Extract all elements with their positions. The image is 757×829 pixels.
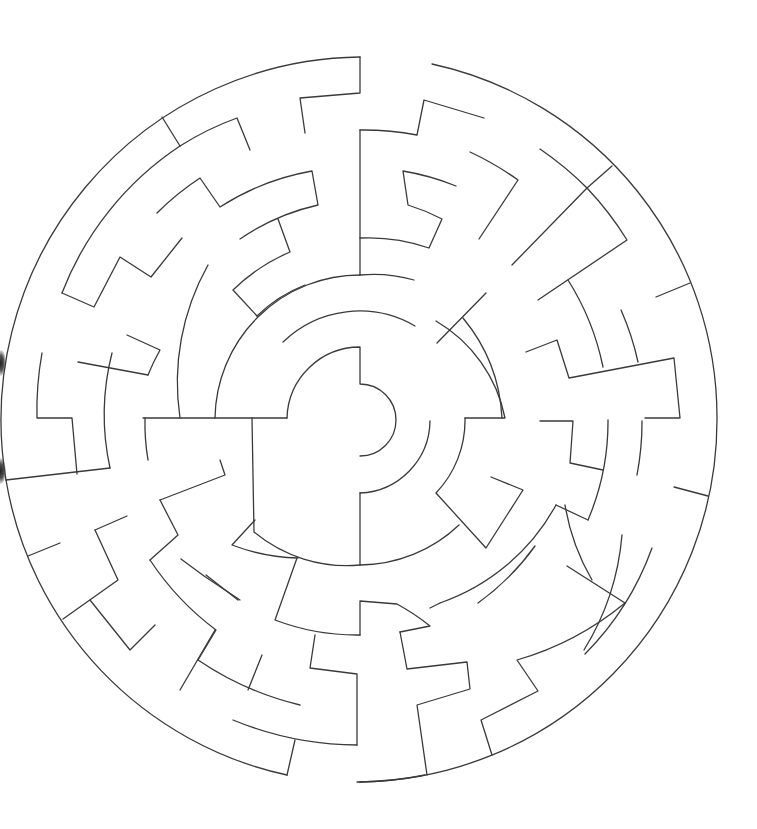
maze-wall [95, 516, 127, 530]
circular-maze [0, 0, 757, 829]
maze-wall [400, 632, 470, 775]
maze-wall [526, 340, 680, 418]
maze-wall [512, 188, 587, 265]
maze-wall [584, 535, 622, 650]
maze-wall [360, 64, 717, 782]
maze-wall [180, 630, 215, 690]
maze-wall [360, 493, 459, 565]
maze-wall [556, 505, 588, 520]
maze-wall [656, 283, 690, 297]
maze-wall [538, 188, 627, 300]
maze-wall [150, 500, 178, 560]
maze-wall [674, 487, 708, 496]
maze-wall [360, 775, 425, 782]
maze-wall [360, 274, 414, 280]
maze-wall [63, 530, 118, 619]
maze-wall [6, 468, 110, 480]
maze-wall [62, 146, 180, 293]
maze-wall [6, 480, 287, 775]
maze-wall [440, 505, 556, 603]
maze-wall [206, 575, 238, 600]
maze-wall [287, 347, 396, 456]
maze-wall [637, 421, 642, 475]
maze-wall [540, 149, 612, 188]
maze-wall [430, 603, 440, 608]
maze-wall [588, 420, 608, 520]
maze-wall [215, 275, 360, 418]
maze-wall [478, 546, 535, 603]
maze-wall [90, 600, 155, 650]
maze-wall [470, 152, 518, 239]
maze-wall [360, 100, 484, 135]
maze-wall [248, 655, 262, 690]
maze-wall [1, 57, 360, 480]
maze-wall [145, 418, 148, 460]
maze-walls [1, 57, 717, 782]
maze-wall [568, 280, 603, 367]
maze-wall [621, 310, 638, 362]
maze-wall [463, 318, 502, 418]
maze-wall [28, 543, 60, 556]
maze-wall [437, 293, 486, 343]
maze-wall [177, 265, 208, 418]
maze-wall [360, 171, 456, 248]
maze-wall [160, 460, 225, 500]
maze-wall [310, 635, 357, 745]
maze-wall [360, 601, 430, 635]
maze-wall [232, 520, 298, 558]
maze-wall [436, 418, 523, 548]
maze-wall [436, 321, 505, 418]
maze-wall [198, 660, 300, 705]
maze-wall [233, 219, 290, 316]
maze-wall [62, 238, 182, 307]
maze-wall [275, 558, 360, 635]
maze-wall [104, 353, 112, 468]
maze-wall [157, 171, 318, 239]
maze-wall [540, 421, 603, 470]
maze-wall [37, 353, 77, 474]
maze-wall [360, 421, 430, 493]
maze-wall [180, 118, 250, 150]
maze-wall [78, 362, 148, 375]
maze-wall [162, 117, 180, 146]
maze-wall [283, 311, 415, 342]
maze-wall [127, 335, 160, 375]
maze-wall [287, 740, 295, 775]
maze-wall [481, 603, 625, 755]
maze-wall [252, 418, 360, 566]
maze-wall [300, 57, 360, 133]
